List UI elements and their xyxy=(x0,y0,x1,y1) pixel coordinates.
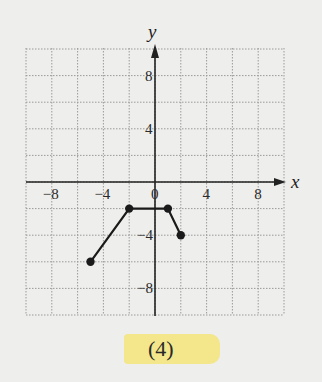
svg-text:4: 4 xyxy=(145,121,153,137)
svg-text:−8: −8 xyxy=(43,186,59,202)
svg-text:0: 0 xyxy=(151,186,159,202)
svg-text:−4: −4 xyxy=(94,186,110,202)
svg-text:−8: −8 xyxy=(137,280,153,296)
svg-text:8: 8 xyxy=(254,186,262,202)
x-axis-label: x xyxy=(290,171,300,192)
svg-text:4: 4 xyxy=(203,186,211,202)
y-axis-label: y xyxy=(146,21,157,42)
axes xyxy=(26,44,286,316)
coordinate-plane: −8−404884−4−8 y x xyxy=(0,0,322,382)
figure-label: (4) xyxy=(148,336,174,362)
svg-text:8: 8 xyxy=(145,68,153,84)
svg-text:−4: −4 xyxy=(137,227,153,243)
